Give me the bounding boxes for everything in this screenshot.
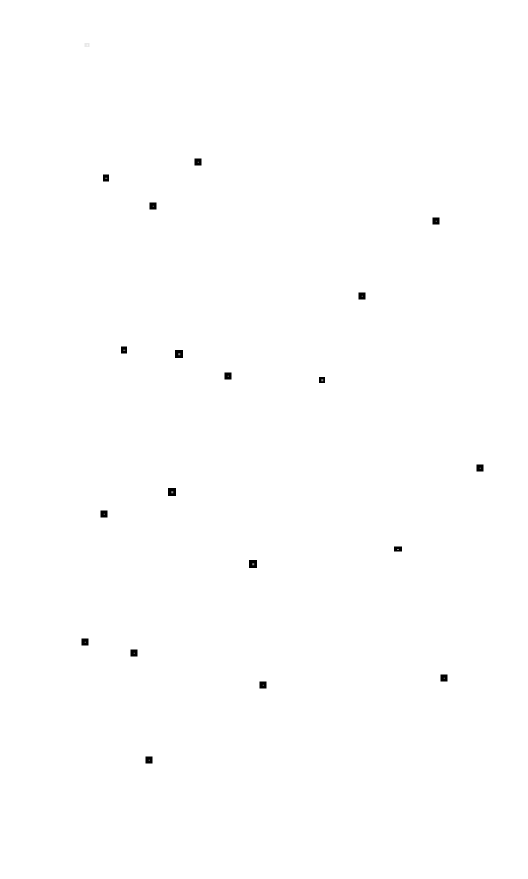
plot-area [0,0,528,879]
scatter-point [319,377,325,383]
scatter-point [359,293,366,300]
scatter-point [249,560,257,568]
scatter-point [433,218,440,225]
scatter-point [260,682,267,689]
scatter-point [85,43,90,47]
scatter-point [146,757,153,764]
scatter-point [101,511,108,518]
scatter-point [441,675,448,682]
scatter-point [225,373,232,380]
scatter-point [394,547,402,552]
scatter-plot-canvas [0,0,528,879]
scatter-point [150,203,157,210]
scatter-point [121,347,127,354]
scatter-point [175,350,183,358]
scatter-point [82,639,89,646]
scatter-point [131,650,138,657]
scatter-point [168,488,176,496]
scatter-point [195,159,202,166]
scatter-point [477,465,484,472]
scatter-point [103,175,109,182]
